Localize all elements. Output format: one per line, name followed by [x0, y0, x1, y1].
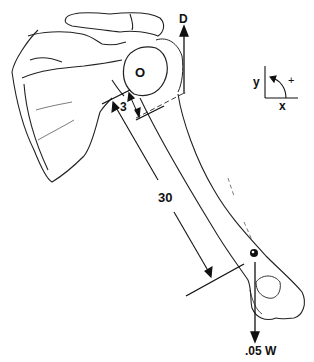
- scapula: [12, 30, 126, 182]
- rotation-sign-label: +: [288, 75, 294, 86]
- humerus-shaft: [140, 94, 304, 320]
- weight-force-label: .05 W: [245, 345, 276, 357]
- dimension-3: [102, 90, 164, 120]
- origin-label: O: [135, 66, 145, 79]
- weight-force-arrow: [251, 262, 259, 342]
- axis-x-label: x: [279, 100, 286, 112]
- axis-y-label: y: [253, 76, 260, 88]
- acromion: [65, 13, 163, 36]
- dimension-30: [112, 102, 244, 296]
- humeral-head: [112, 39, 183, 96]
- long-distance-label: 30: [158, 191, 172, 204]
- short-distance-label: 3: [120, 101, 127, 113]
- center-of-mass-marker: [250, 249, 258, 257]
- diagram-canvas: [0, 0, 314, 362]
- force-d-label: D: [179, 13, 188, 25]
